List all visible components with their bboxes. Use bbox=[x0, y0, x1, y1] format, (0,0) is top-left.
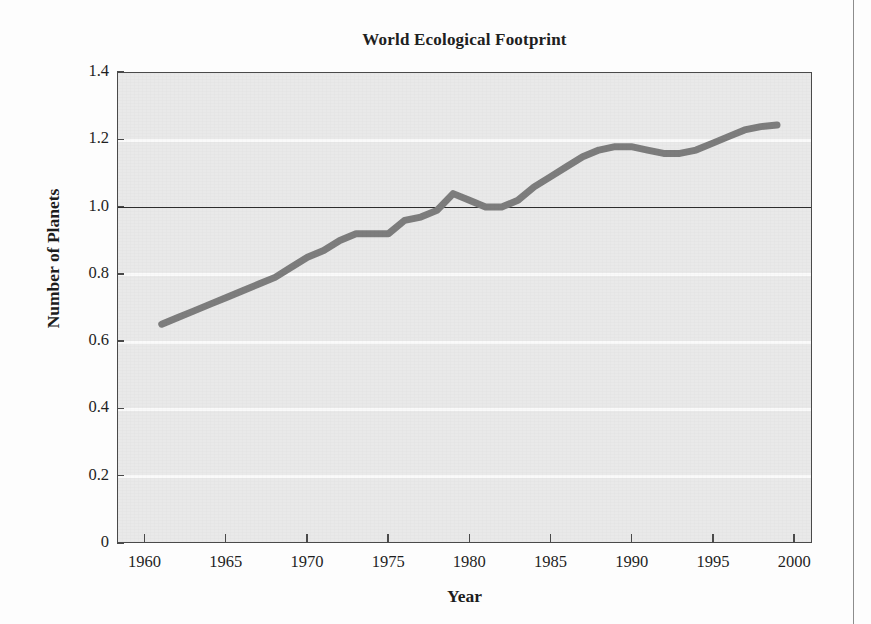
x-axis-label: Year bbox=[117, 586, 812, 607]
x-tick-mark bbox=[712, 534, 713, 543]
x-tick-label: 1995 bbox=[683, 552, 743, 572]
y-tick-mark bbox=[117, 475, 124, 476]
y-tick-label: 0 bbox=[65, 532, 109, 552]
y-axis-label: Number of Planets bbox=[43, 139, 64, 379]
data-line-series bbox=[162, 125, 777, 324]
scanned-page: World Ecological Footprint 00.20.40.60.8… bbox=[0, 0, 871, 624]
x-tick-mark bbox=[225, 534, 226, 543]
y-tick-label: 0.8 bbox=[65, 263, 109, 283]
y-tick-label: 0.2 bbox=[65, 465, 109, 485]
x-tick-label: 1965 bbox=[196, 552, 256, 572]
y-tick-label: 0.4 bbox=[65, 397, 109, 417]
x-tick-label: 1975 bbox=[358, 552, 418, 572]
y-tick-mark bbox=[117, 542, 124, 543]
x-tick-mark bbox=[631, 534, 632, 543]
x-tick-mark bbox=[387, 534, 388, 543]
x-tick-label: 1970 bbox=[277, 552, 337, 572]
x-tick-label: 1960 bbox=[115, 552, 175, 572]
y-tick-label: 1.4 bbox=[65, 61, 109, 81]
x-tick-mark bbox=[306, 534, 307, 543]
x-tick-label: 1985 bbox=[521, 552, 581, 572]
plot-area bbox=[117, 72, 812, 543]
chart-figure: World Ecological Footprint 00.20.40.60.8… bbox=[0, 0, 853, 624]
page-border-line bbox=[853, 0, 854, 624]
y-tick-mark bbox=[117, 408, 124, 409]
x-tick-mark bbox=[550, 534, 551, 543]
y-tick-mark bbox=[117, 273, 124, 274]
x-tick-label: 2000 bbox=[764, 552, 824, 572]
x-tick-label: 1980 bbox=[439, 552, 499, 572]
x-tick-mark bbox=[469, 534, 470, 543]
x-tick-label: 1990 bbox=[602, 552, 662, 572]
y-tick-mark bbox=[117, 71, 124, 72]
y-tick-mark bbox=[117, 340, 124, 341]
chart-title: World Ecological Footprint bbox=[117, 30, 812, 50]
y-tick-mark bbox=[117, 206, 124, 207]
data-line-layer bbox=[118, 73, 811, 542]
x-tick-mark bbox=[144, 534, 145, 543]
y-tick-label: 1.0 bbox=[65, 196, 109, 216]
x-tick-mark bbox=[793, 534, 794, 543]
y-tick-label: 0.6 bbox=[65, 330, 109, 350]
y-tick-label: 1.2 bbox=[65, 128, 109, 148]
y-tick-mark bbox=[117, 139, 124, 140]
